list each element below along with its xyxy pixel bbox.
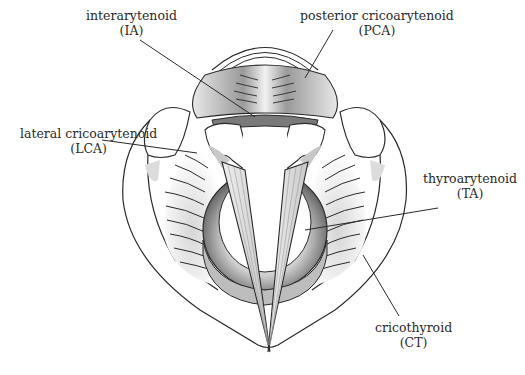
label-name: cricothyroid — [375, 320, 452, 335]
label-abbr: (CT) — [375, 335, 452, 350]
label-abbr: (PCA) — [300, 23, 454, 38]
label-interarytenoid: interarytenoid (IA) — [86, 8, 177, 38]
label-lateral-cricoarytenoid: lateral cricoarytenoid (LCA) — [20, 126, 157, 156]
label-posterior-cricoarytenoid: posterior cricoarytenoid (PCA) — [300, 8, 454, 38]
label-cricothyroid: cricothyroid (CT) — [375, 320, 452, 350]
label-name: interarytenoid — [86, 8, 177, 23]
label-name: thyroarytenoid — [423, 171, 517, 186]
larynx-diagram: interarytenoid (IA) posterior cricoaryte… — [0, 0, 525, 375]
pca-muscle — [193, 48, 338, 119]
label-thyroarytenoid: thyroarytenoid (TA) — [423, 171, 517, 201]
label-name: lateral cricoarytenoid — [20, 126, 157, 141]
label-abbr: (LCA) — [20, 141, 157, 156]
label-abbr: (TA) — [423, 186, 517, 201]
label-name: posterior cricoarytenoid — [300, 8, 454, 23]
label-abbr: (IA) — [86, 23, 177, 38]
